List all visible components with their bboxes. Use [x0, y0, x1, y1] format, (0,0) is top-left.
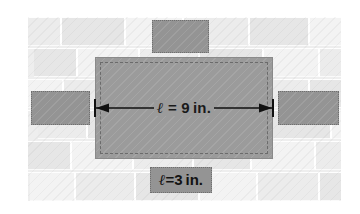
wall-brick [30, 173, 76, 201]
width-label: ℓ=3 in. [159, 172, 203, 188]
width-value: 3 [174, 171, 182, 188]
tile-texture [153, 21, 208, 52]
tile-left [31, 91, 90, 125]
wall-brick [76, 173, 136, 201]
wall-brick [62, 18, 126, 46]
width-unit: in. [186, 171, 204, 188]
length-label: ℓ = 9 in. [92, 96, 276, 120]
tile-right [278, 91, 339, 125]
length-value: 9 [181, 99, 190, 116]
length-dimension-group: ℓ = 9 in. [92, 96, 276, 120]
tile-bottom-label: ℓ=3 in. [150, 167, 212, 193]
wall-brick [320, 49, 341, 77]
wall-brick [28, 142, 72, 170]
width-equals: = [165, 171, 174, 188]
length-symbol: ℓ [157, 100, 164, 116]
wall-brick [316, 142, 341, 170]
geometry-figure: ℓ = 9 in. ℓ=3 in. [0, 0, 360, 214]
length-unit: in. [193, 99, 211, 116]
wall-brick [310, 18, 341, 46]
wall-brick [34, 49, 78, 77]
wall-brick [320, 173, 341, 201]
wall-brick [250, 18, 310, 46]
tile-texture [279, 92, 338, 124]
length-equals: = [164, 99, 182, 116]
tile-top [152, 20, 209, 53]
wall-brick [28, 18, 62, 46]
tile-texture [32, 92, 89, 124]
wall-brick [258, 173, 320, 201]
